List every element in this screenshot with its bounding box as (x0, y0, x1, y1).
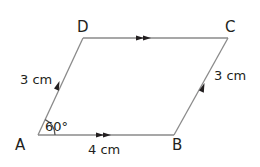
double-arrow-icon-ab-1 (96, 133, 104, 138)
double-arrow-icon-ab-2 (103, 133, 111, 138)
side-label-bc: 3 cm (214, 68, 246, 83)
side-label-ab: 4 cm (88, 142, 120, 157)
vertex-label-a: A (15, 136, 26, 154)
double-arrow-icon-dc-2 (143, 36, 151, 41)
vertex-label-c: C (225, 18, 235, 36)
side-label-ad: 3 cm (20, 72, 52, 87)
side-bc (174, 38, 228, 135)
double-arrow-icon-dc-1 (136, 36, 144, 41)
vertex-label-d: D (77, 18, 89, 36)
angle-label-a: 60° (45, 119, 68, 134)
parallelogram-diagram: A B C D 3 cm 3 cm 4 cm 60° (0, 0, 260, 167)
vertex-label-b: B (172, 136, 182, 154)
arrow-icon-ad (54, 81, 60, 91)
